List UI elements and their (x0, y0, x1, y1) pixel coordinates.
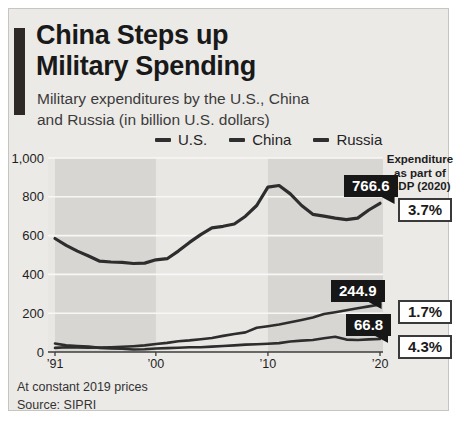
y-axis-tick-label: 0 (37, 345, 44, 360)
legend-label-russia: Russia (336, 131, 382, 148)
x-axis-tick-label: ’00 (148, 357, 165, 371)
chart-legend: U.S. China Russia (155, 131, 382, 148)
gdp-share-china-badge: 1.7% (398, 300, 452, 324)
decade-band (55, 158, 156, 352)
infographic-card: China Steps up Military Spending Militar… (8, 8, 449, 411)
china-end-value-label: 244.9 (331, 280, 385, 302)
legend-label-china: China (252, 131, 291, 148)
title-accent-bar (14, 28, 25, 115)
x-axis-tick-label: ’10 (260, 357, 277, 371)
legend-item-china: China (229, 131, 291, 148)
footnote: At constant 2019 prices (17, 380, 148, 394)
legend-item-russia: Russia (313, 131, 382, 148)
x-axis-tick-label: ’91 (47, 357, 64, 371)
us-end-value-label: 766.6 (344, 175, 398, 197)
y-axis-tick-label: 200 (22, 306, 44, 321)
russia-line-marker-icon (313, 138, 329, 142)
page-title: China Steps up Military Spending (36, 20, 256, 82)
legend-label-us: U.S. (178, 131, 207, 148)
russia-end-value-label: 66.8 (346, 314, 391, 336)
gdp-share-us-badge: 3.7% (398, 198, 452, 222)
us-line-marker-icon (155, 138, 171, 142)
legend-item-us: U.S. (155, 131, 207, 148)
y-axis-tick-label: 1,000 (11, 151, 44, 166)
y-axis-tick-label: 400 (22, 267, 44, 282)
gdp-share-russia-badge: 4.3% (398, 335, 452, 359)
source-credit: Source: SIPRI (17, 398, 96, 412)
y-axis-tick-label: 600 (22, 228, 44, 243)
page-subtitle: Military expenditures by the U.S., China… (37, 88, 309, 130)
y-axis-tick-label: 800 (22, 189, 44, 204)
x-axis-tick-label: ’20 (372, 357, 389, 371)
china-line-marker-icon (229, 138, 245, 142)
